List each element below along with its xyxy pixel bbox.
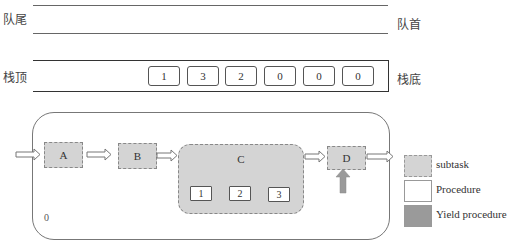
yield-arrow-up-icon: [336, 169, 350, 193]
legend-swatch-yield: [404, 205, 432, 227]
arrow-right-icon: [157, 150, 177, 161]
arrow-right-icon: [367, 151, 393, 162]
legend-label-subtask: subtask: [436, 158, 469, 170]
arrow-right-icon: [305, 151, 325, 162]
legend-swatch-procedure: [404, 180, 432, 202]
legend-swatch-subtask: [404, 155, 432, 177]
legend-label-procedure: Procedure: [436, 183, 481, 195]
arrow-right-icon: [87, 149, 111, 160]
legend-label-yield: Yield procedure: [436, 208, 507, 220]
arrow-right-icon: [16, 149, 40, 160]
